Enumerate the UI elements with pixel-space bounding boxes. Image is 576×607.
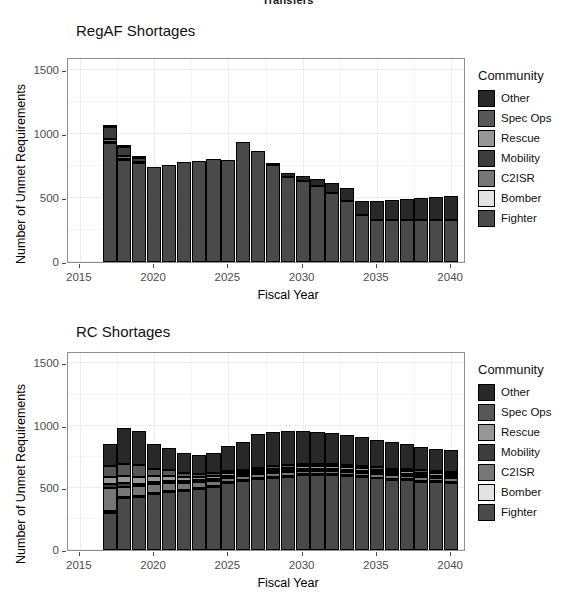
bar-segment-rescue [325,466,339,468]
bar-2019[interactable] [132,58,146,262]
bar-2023[interactable] [192,352,206,550]
bar-segment-c2isr [162,483,176,491]
bar-2037[interactable] [400,58,414,262]
bar-segment-mobility [206,479,220,481]
bar-2027[interactable] [251,58,265,262]
bar-segment-bomber [103,511,117,513]
bar-segment-fighter [117,160,131,263]
legend-item-label: Rescue [501,132,540,144]
bar-segment-fighter [385,480,399,550]
bar-2030[interactable] [296,58,310,262]
legend-swatch-icon [478,384,495,401]
legend-item-bomber[interactable]: Bomber [478,188,552,208]
bar-2037[interactable] [400,352,414,550]
bar-2020[interactable] [147,352,161,550]
bar-segment-rescue [162,476,176,481]
bar-2039[interactable] [429,58,443,262]
bar-segment-spec-ops [310,464,324,466]
bar-segment-rescue [177,477,191,481]
bar-2034[interactable] [355,352,369,550]
bar-2034[interactable] [355,58,369,262]
bar-2025[interactable] [221,352,235,550]
x-tick-label: 2015 [54,559,104,571]
bar-2018[interactable] [117,58,131,262]
bar-2017[interactable] [103,352,117,550]
bar-segment-mobility [221,476,235,478]
bar-segment-rescue [444,474,458,476]
legend-item-mobility[interactable]: Mobility [478,148,552,168]
legend-item-rescue[interactable]: Rescue [478,128,552,148]
bar-segment-c2isr [400,476,414,479]
bar-segment-fighter [370,220,384,262]
bar-2036[interactable] [385,352,399,550]
bar-2031[interactable] [310,352,324,550]
bar-segment-fighter [236,142,250,262]
bar-2035[interactable] [370,352,384,550]
bar-segment-other [400,444,414,469]
bar-2018[interactable] [117,352,131,550]
bar-2029[interactable] [281,352,295,550]
y-tick-label: 1500 [21,357,59,369]
bar-2020[interactable] [147,58,161,262]
bar-segment-other [414,198,428,220]
bar-2019[interactable] [132,352,146,550]
bar-2035[interactable] [370,58,384,262]
bar-2030[interactable] [296,352,310,550]
bar-segment-other [340,435,354,465]
bar-segment-c2isr [221,478,235,482]
bar-2028[interactable] [266,352,280,550]
bar-2021[interactable] [162,58,176,262]
bar-2022[interactable] [177,352,191,550]
bar-2026[interactable] [236,352,250,550]
bar-2024[interactable] [206,352,220,550]
bar-segment-fighter [414,220,428,262]
legend-item-bomber[interactable]: Bomber [478,482,552,502]
bar-2028[interactable] [266,58,280,262]
legend-item-other[interactable]: Other [478,88,552,108]
bar-2036[interactable] [385,58,399,262]
bar-2029[interactable] [281,58,295,262]
bar-2022[interactable] [177,58,191,262]
bar-2024[interactable] [206,58,220,262]
legend-item-c2isr[interactable]: C2ISR [478,168,552,188]
bar-2039[interactable] [429,352,443,550]
legend-item-mobility[interactable]: Mobility [478,442,552,462]
bar-2027[interactable] [251,352,265,550]
bar-segment-fighter [429,220,443,262]
bar-2040[interactable] [444,352,458,550]
y-tick-label: 0 [21,256,59,268]
bar-2021[interactable] [162,352,176,550]
legend-item-c2isr[interactable]: C2ISR [478,462,552,482]
bar-segment-rescue [192,477,206,480]
gridline-major-vertical [80,353,81,550]
bar-segment-other [325,433,339,464]
bar-segment-other [355,437,369,466]
bar-segment-rescue [206,476,220,479]
legend-item-label: Bomber [501,192,541,204]
bar-2025[interactable] [221,58,235,262]
bar-2023[interactable] [192,58,206,262]
legend-item-fighter[interactable]: Fighter [478,208,552,228]
legend-item-rescue[interactable]: Rescue [478,422,552,442]
legend-item-other[interactable]: Other [478,382,552,402]
bar-segment-fighter [340,201,354,262]
bar-segment-fighter [355,477,369,550]
plot-area-rc [67,352,465,551]
bar-2038[interactable] [414,352,428,550]
legend-item-spec-ops[interactable]: Spec Ops [478,402,552,422]
panel-title-rc: RC Shortages [76,323,170,340]
bar-2033[interactable] [340,352,354,550]
bar-2026[interactable] [236,58,250,262]
legend-item-label: Rescue [501,426,540,438]
bar-2017[interactable] [103,58,117,262]
bar-segment-spec-ops [429,471,443,473]
bar-2031[interactable] [310,58,324,262]
y-tick-label: 1000 [21,420,59,432]
bar-2033[interactable] [340,58,354,262]
bar-2032[interactable] [325,352,339,550]
bar-2032[interactable] [325,58,339,262]
legend-item-fighter[interactable]: Fighter [478,502,552,522]
legend-item-spec-ops[interactable]: Spec Ops [478,108,552,128]
bar-2038[interactable] [414,58,428,262]
bar-2040[interactable] [444,58,458,262]
